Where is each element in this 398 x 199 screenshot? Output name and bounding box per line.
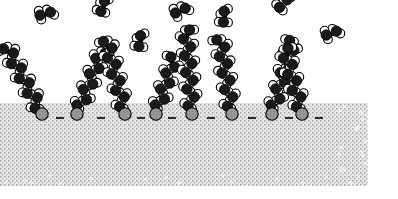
substrate-edge-fade: [361, 118, 364, 121]
substrate-edge-fade: [368, 154, 371, 157]
carbon-atom: [8, 48, 18, 58]
carbon-atom: [275, 94, 285, 104]
sulfur-head-atom: [119, 108, 131, 120]
substrate-edge-fade: [177, 181, 180, 184]
carbon-atom: [321, 30, 331, 40]
substrate-edge-fade: [27, 186, 30, 189]
substrate-edge-fade: [165, 176, 168, 179]
substrate-edge-fade: [90, 177, 93, 180]
carbon-atom: [214, 51, 224, 61]
substrate-edge-fade: [59, 182, 62, 185]
substrate-edge-fade: [338, 153, 341, 156]
substrate-edge-fade: [23, 179, 26, 182]
sulfur-head-atom: [150, 108, 162, 120]
carbon-atom: [184, 25, 194, 35]
carbon-atom: [107, 43, 117, 53]
substrate-edge-fade: [350, 182, 353, 185]
substrate-edge-fade: [362, 154, 365, 157]
carbon-atom: [32, 92, 42, 102]
sulfur-head-atom: [266, 108, 278, 120]
carbon-atom: [222, 58, 232, 68]
substrate-edge-fade: [30, 181, 33, 184]
carbon-atom: [161, 68, 171, 78]
carbon-atom: [278, 53, 288, 63]
carbon-atom: [6, 58, 16, 68]
substrate-edge-fade: [340, 167, 343, 170]
carbon-atom: [170, 8, 180, 18]
sulfur-head-atom: [71, 108, 83, 120]
carbon-atom: [164, 78, 174, 88]
carbon-atom: [182, 84, 192, 94]
substrate-edge-fade: [46, 185, 49, 188]
carbon-atom: [291, 75, 301, 85]
carbon-atom: [0, 44, 9, 54]
substrate-edge-fade: [355, 128, 358, 131]
carbon-atom: [81, 94, 91, 104]
carbon-atom: [159, 94, 169, 104]
substrate-edge-fade: [308, 186, 311, 189]
substrate-edge-fade: [343, 168, 346, 171]
substrate-edge-fade: [245, 185, 248, 188]
carbon-atom: [134, 41, 144, 51]
carbon-atom: [225, 75, 235, 85]
carbon-atom: [220, 42, 230, 52]
carbon-atom: [22, 88, 32, 98]
substrate-edge-fade: [360, 185, 363, 188]
substrate-edge-fade: [339, 146, 342, 149]
substrate-edge-fade: [367, 126, 370, 129]
carbon-atom: [115, 75, 125, 85]
carbon-atom: [188, 75, 198, 85]
carbon-atom: [270, 84, 280, 94]
substrate-edge-fade: [364, 140, 367, 143]
carbon-atom: [14, 73, 24, 83]
carbon-atom: [45, 7, 55, 17]
substrate-surface: [0, 103, 368, 186]
substrate-edge-fade: [180, 181, 183, 184]
carbon-atom: [283, 43, 293, 53]
carbon-atom: [219, 84, 229, 94]
substrate-edge-fade: [144, 178, 147, 181]
sam-molecular-diagram: [0, 0, 398, 199]
substrate-edge-fade: [48, 174, 51, 177]
carbon-atom: [111, 59, 121, 69]
carbon-atom: [24, 78, 34, 88]
carbon-atom: [135, 31, 145, 41]
sulfur-head-atom: [296, 108, 308, 120]
substrate-edge-fade: [276, 177, 279, 180]
carbon-atom: [274, 2, 284, 12]
carbon-atom: [287, 59, 297, 69]
carbon-atom: [219, 6, 229, 16]
carbon-atom: [180, 67, 190, 77]
carbon-atom: [88, 79, 98, 89]
sulfur-head-atom: [226, 108, 238, 120]
carbon-atom: [84, 69, 94, 79]
carbon-atom: [180, 3, 190, 13]
substrate-edge-fade: [366, 114, 369, 117]
substrate-edge-fade: [326, 184, 329, 187]
substrate-edge-fade: [230, 180, 233, 183]
carbon-atom: [212, 35, 222, 45]
carbon-atom: [35, 10, 45, 20]
carbon-atom: [218, 17, 228, 27]
carbon-atom: [178, 34, 188, 44]
carbon-atom: [166, 52, 176, 62]
substrate-edge-fade: [340, 170, 343, 173]
substrate-edge-fade: [144, 187, 147, 190]
carbon-atom: [16, 63, 26, 73]
carbon-atom: [179, 50, 189, 60]
substrate-edge-fade: [357, 175, 360, 178]
substrate-edge-fade: [360, 151, 363, 154]
substrate-edge-fade: [301, 182, 304, 185]
carbon-atom: [287, 85, 297, 95]
sulfur-head-atom: [186, 108, 198, 120]
substrate-edge-fade: [221, 174, 224, 177]
carbon-atom: [155, 84, 165, 94]
carbon-atom: [119, 92, 129, 102]
substrate-edge-fade: [325, 176, 328, 179]
sulfur-head-atom: [36, 108, 48, 120]
substrate-edge-fade: [366, 121, 369, 124]
substrate-edge-fade: [343, 105, 346, 108]
carbon-atom: [228, 92, 238, 102]
carbon-atom: [102, 53, 112, 63]
carbon-atom: [331, 26, 341, 36]
